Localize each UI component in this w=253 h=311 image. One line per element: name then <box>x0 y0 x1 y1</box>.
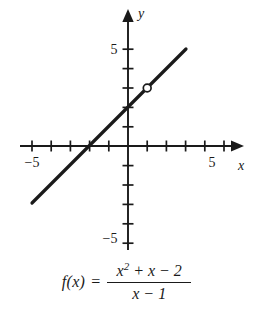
fraction-denominator: x − 1 <box>129 283 169 302</box>
numerator-rest: + x − 2 <box>129 262 182 279</box>
coordinate-plane: −5 5 5 −5 x y <box>0 0 253 255</box>
x-tick-label-pos5: 5 <box>209 155 216 170</box>
fraction: x2 + x − 2 x − 1 <box>107 261 191 302</box>
y-axis-arrowhead <box>122 9 133 22</box>
x-tick-label-neg5: −5 <box>25 155 40 170</box>
numerator-base: x <box>117 262 124 279</box>
function-line <box>32 49 186 203</box>
equals-sign: = <box>91 273 100 291</box>
formula-row: f(x) = x2 + x − 2 x − 1 <box>62 261 191 302</box>
y-axis-label: y <box>136 6 145 21</box>
y-tick-label-pos5: 5 <box>111 42 118 57</box>
hole-open-circle <box>143 84 151 92</box>
fraction-numerator: x2 + x − 2 <box>114 261 185 282</box>
function-formula: f(x) = x2 + x − 2 x − 1 <box>0 252 253 311</box>
y-tick-label-neg5: −5 <box>103 231 118 246</box>
math-figure: −5 5 5 −5 x y f(x) = x2 + x − 2 x − 1 <box>0 0 253 311</box>
x-axis-label: x <box>237 158 245 173</box>
x-axis-arrowhead <box>231 141 244 152</box>
function-name-label: f(x) <box>62 273 85 291</box>
